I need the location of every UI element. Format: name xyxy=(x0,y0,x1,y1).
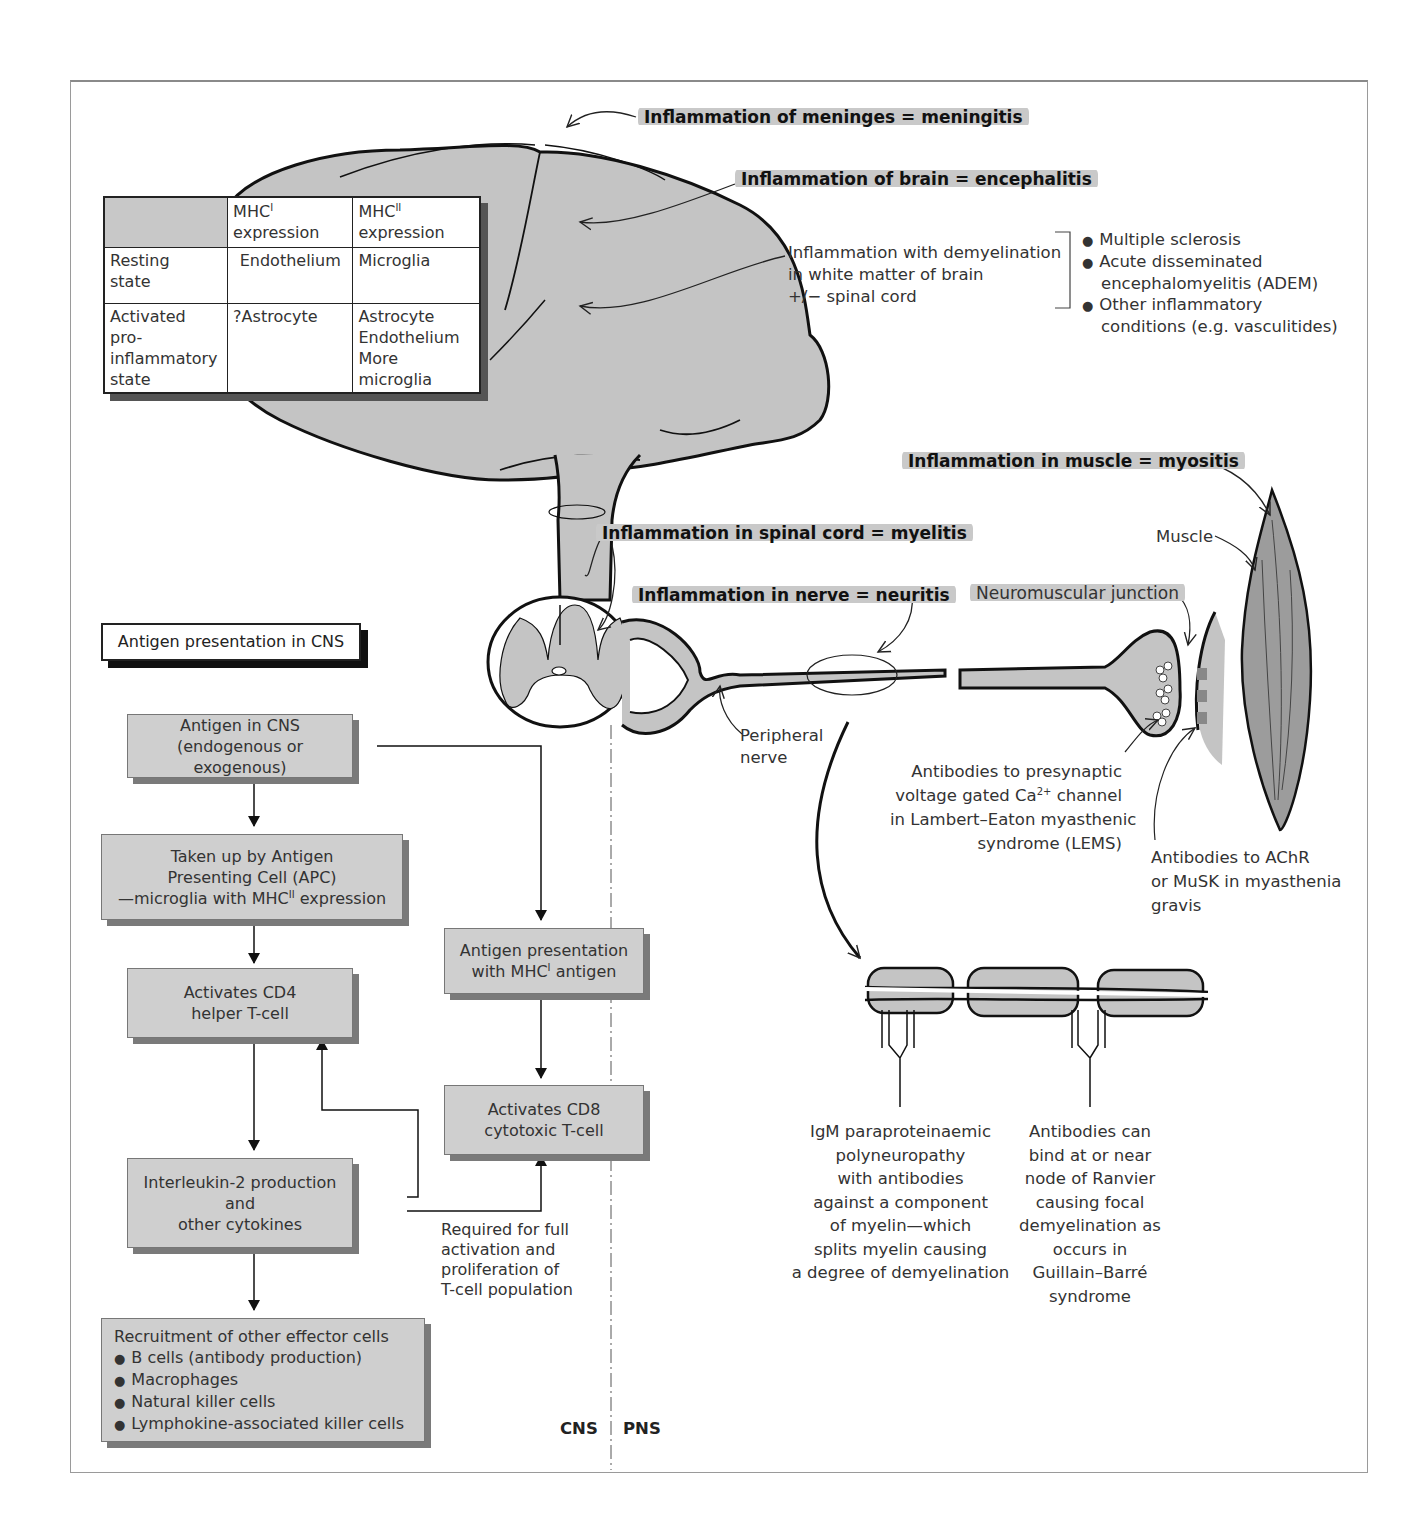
row-state: Restingstate xyxy=(104,247,228,303)
label-neuromuscular-junction: Neuromuscular junction xyxy=(970,582,1185,604)
label-peripheral-nerve: Peripheral nerve xyxy=(740,725,823,769)
box-antigen-in-cns: Antigen in CNS(endogenous or exogenous) xyxy=(127,714,353,778)
demyelination-conditions-list: Multiple sclerosis Acute disseminated en… xyxy=(1082,229,1338,337)
label-igm-polyneuropathy: IgM paraproteinaemic polyneuropathy with… xyxy=(788,1120,1013,1285)
label-achr: Antibodies to AChR or MuSK in myasthenia… xyxy=(1151,846,1341,918)
list-item: Natural killer cells xyxy=(114,1391,424,1413)
table-row: Restingstate Endothelium Microglia xyxy=(104,247,480,303)
list-item: B cells (antibody production) xyxy=(114,1347,424,1369)
box-cd4-activation: Activates CD4helper T-cell xyxy=(127,968,353,1038)
label-guillain-barre: Antibodies can bind at or near node of R… xyxy=(1015,1120,1165,1308)
table-corner xyxy=(104,197,228,247)
header-mhc2: MHCII expression xyxy=(353,197,480,247)
label-lems: Antibodies to presynaptic voltage gated … xyxy=(890,760,1122,856)
box-cd8-activation: Activates CD8cytotoxic T-cell xyxy=(444,1085,644,1155)
box-mhc1-presentation: Antigen presentation with MHCI antigen xyxy=(444,928,644,994)
row-mhc2: Microglia xyxy=(353,247,480,303)
myelin-diagram xyxy=(865,968,1208,1107)
label-neuritis: Inflammation in nerve = neuritis xyxy=(632,584,956,606)
label-demyelination: Inflammation with demyelination in white… xyxy=(788,242,1061,308)
mhc-expression-table: MHCI expression MHCII expression Resting… xyxy=(103,196,481,394)
label-required-activation: Required for fullactivation and prolifer… xyxy=(441,1220,573,1300)
label-meningitis: Inflammation of meninges = meningitis xyxy=(638,106,1029,128)
flowchart-title: Antigen presentation in CNS xyxy=(101,623,361,661)
row-mhc2: AstrocyteEndotheliumMore microglia xyxy=(353,303,480,393)
list-item: Other inflammatory xyxy=(1082,294,1338,316)
box-il2-production: Interleukin-2 productionandother cytokin… xyxy=(127,1158,353,1248)
row-mhc1: Endothelium xyxy=(228,247,353,303)
table-row: Activated pro-inflammatorystate ?Astrocy… xyxy=(104,303,480,393)
spinal-cord-section xyxy=(488,597,632,727)
label-cns: CNS xyxy=(560,1418,598,1440)
list-item: Lymphokine-associated killer cells xyxy=(114,1413,424,1435)
box-effector-recruitment: Recruitment of other effector cells B ce… xyxy=(101,1318,425,1442)
label-pns: PNS xyxy=(623,1418,661,1440)
box-apc-uptake: Taken up by AntigenPresenting Cell (APC)… xyxy=(101,834,403,920)
list-item: Macrophages xyxy=(114,1369,424,1391)
header-mhc1: MHCI expression xyxy=(228,197,353,247)
table-header-row: MHCI expression MHCII expression xyxy=(104,197,480,247)
list-item: Multiple sclerosis xyxy=(1082,229,1338,251)
row-mhc1: ?Astrocyte xyxy=(228,303,353,393)
label-myositis: Inflammation in muscle = myositis xyxy=(902,450,1245,472)
row-state: Activated pro-inflammatorystate xyxy=(104,303,228,393)
label-encephalitis: Inflammation of brain = encephalitis xyxy=(735,168,1098,190)
list-item: Acute disseminated xyxy=(1082,251,1338,273)
label-myelitis: Inflammation in spinal cord = myelitis xyxy=(596,522,973,544)
label-muscle: Muscle xyxy=(1156,526,1213,548)
